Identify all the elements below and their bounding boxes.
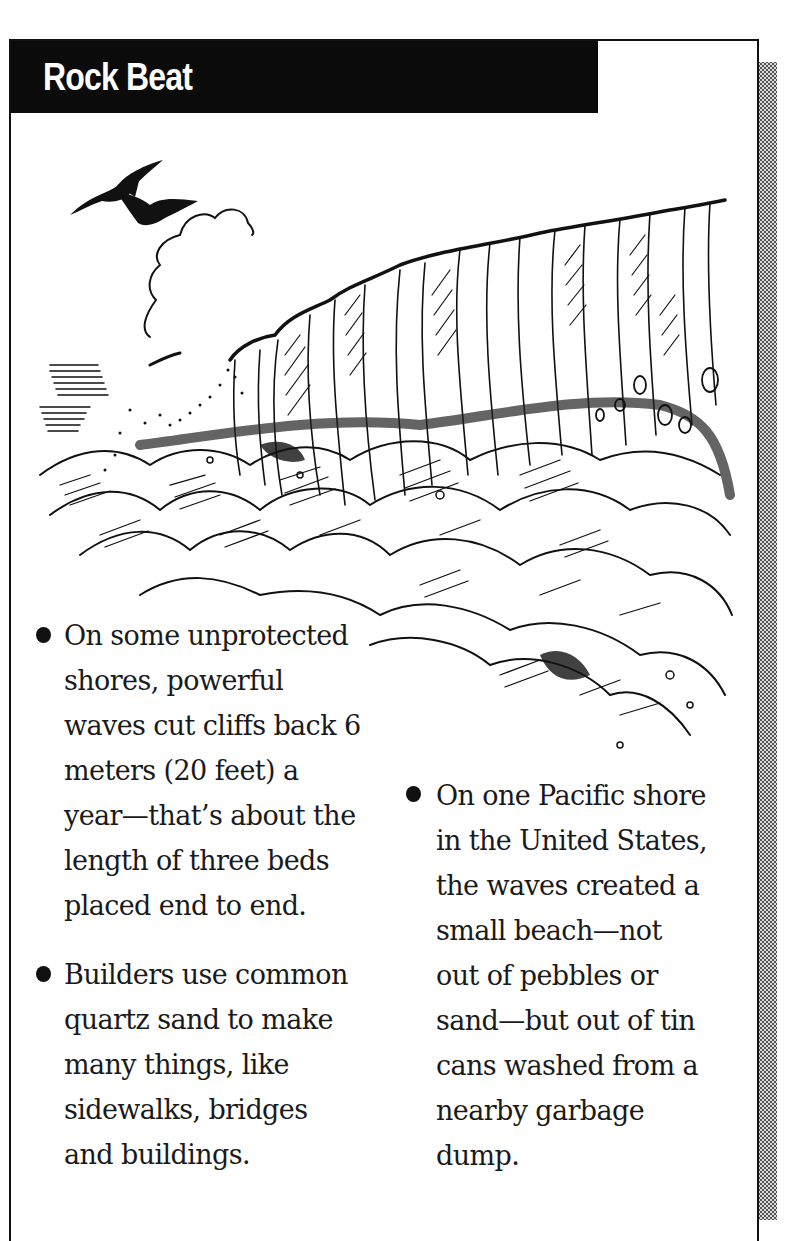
fact-line: length of three beds xyxy=(64,838,360,883)
header-bar: Rock Beat xyxy=(11,41,598,113)
frame-drop-shadow xyxy=(759,62,777,1220)
fact-line: shores, powerful xyxy=(64,658,360,703)
fact-line: meters (20 feet) a xyxy=(64,748,360,793)
fact-line: out of pebbles or xyxy=(436,953,707,998)
bullet-icon xyxy=(406,786,421,802)
fact-line: year—that’s about the xyxy=(64,793,360,838)
fact-line: sand—but out of tin xyxy=(436,998,707,1043)
bullet-icon xyxy=(36,966,51,982)
fact-line: nearby garbage xyxy=(436,1088,707,1133)
fact-line: placed end to end. xyxy=(64,883,360,928)
fact-line: Builders use common xyxy=(64,952,348,997)
fact-item: On one Pacific shore in the United State… xyxy=(436,773,707,1178)
fact-line: On some unprotected xyxy=(64,613,360,658)
fact-line: dump. xyxy=(436,1133,707,1178)
fact-line: waves cut cliffs back 6 xyxy=(64,703,360,748)
bullet-icon xyxy=(36,627,51,643)
fact-line: quartz sand to make xyxy=(64,997,348,1042)
fact-line: and buildings. xyxy=(64,1132,348,1177)
bird-icon xyxy=(115,190,198,225)
fact-line: the waves created a xyxy=(436,863,707,908)
fact-line: small beach—not xyxy=(436,908,707,953)
fact-line: many things, like xyxy=(64,1042,348,1087)
page-title: Rock Beat xyxy=(43,51,192,103)
fact-line: On one Pacific shore xyxy=(436,773,707,818)
fact-line: cans washed from a xyxy=(436,1043,707,1088)
fact-item: Builders use common quartz sand to make … xyxy=(64,952,348,1177)
fact-line: in the United States, xyxy=(436,818,707,863)
fact-item: On some unprotected shores, powerful wav… xyxy=(64,613,360,928)
fact-line: sidewalks, bridges xyxy=(64,1087,348,1132)
